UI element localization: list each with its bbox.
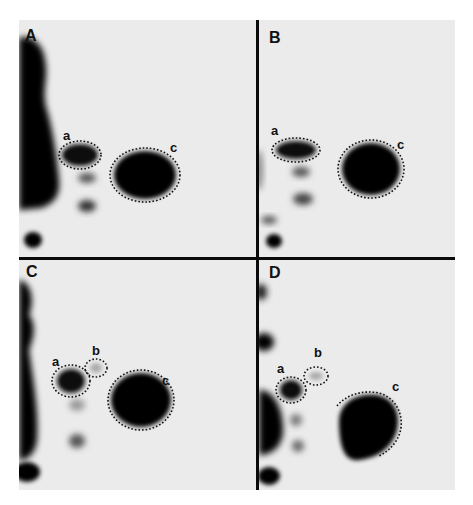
autoradiograph-figure: A a c B a c bbox=[19, 20, 455, 490]
horizontal-divider bbox=[19, 257, 455, 260]
spot-label-c: c bbox=[162, 374, 169, 387]
panel-b-spots bbox=[259, 20, 455, 257]
spot-label-a: a bbox=[63, 129, 70, 142]
panel-label-a: A bbox=[25, 28, 37, 44]
spot-label-b: b bbox=[314, 346, 322, 359]
spot-label-c: c bbox=[392, 380, 399, 393]
spot-label-c: c bbox=[170, 141, 177, 154]
panel-a: A a c bbox=[19, 20, 256, 257]
panel-b: B a c bbox=[259, 20, 455, 257]
panel-c: C a b c bbox=[19, 260, 256, 490]
spot-label-c: c bbox=[397, 138, 404, 151]
panel-label-c: C bbox=[26, 264, 38, 280]
spot-label-a: a bbox=[271, 124, 278, 137]
panel-label-d: D bbox=[269, 265, 281, 281]
panel-label-b: B bbox=[269, 30, 281, 46]
spot-label-a: a bbox=[277, 362, 284, 375]
panel-c-spots bbox=[19, 260, 256, 490]
panel-d: D a b c bbox=[259, 260, 455, 490]
panel-d-spots bbox=[259, 260, 455, 490]
spot-label-a: a bbox=[52, 355, 59, 368]
spot-label-b: b bbox=[92, 344, 100, 357]
vertical-divider bbox=[256, 20, 259, 490]
panel-a-spots bbox=[19, 20, 256, 257]
